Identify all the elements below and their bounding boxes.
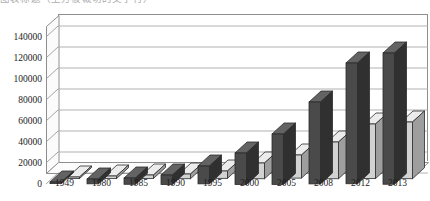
x-tick-label: 1949 xyxy=(46,178,83,189)
x-tick-label: 1995 xyxy=(194,178,231,189)
y-tick-label: 60000 xyxy=(18,116,42,126)
y-tick-label: 40000 xyxy=(18,137,42,147)
x-tick-label: 1990 xyxy=(157,178,194,189)
bar-column xyxy=(272,134,284,184)
x-axis-tick-labels: 1949198019851990199520002005200820122013 xyxy=(0,178,428,200)
y-tick-label: 140000 xyxy=(14,32,43,42)
x-tick-label: 2005 xyxy=(268,178,305,189)
clipped-caption-text: 图表标题（上方被裁切的文字行） xyxy=(0,0,428,3)
chart-left-wall xyxy=(46,14,59,173)
bar-column xyxy=(346,63,358,184)
x-tick-label: 1985 xyxy=(120,178,157,189)
column-chart-3d: 020000400006000080000100000120000140000 … xyxy=(0,12,428,201)
bar-column xyxy=(383,53,395,184)
x-tick-label: 2000 xyxy=(231,178,268,189)
x-tick-label: 2012 xyxy=(342,178,379,189)
y-tick-label: 20000 xyxy=(18,158,42,168)
bar-column xyxy=(309,102,321,184)
y-tick-label: 120000 xyxy=(14,53,43,63)
x-tick-label: 1980 xyxy=(83,178,120,189)
y-tick-label: 80000 xyxy=(18,95,42,105)
x-tick-label: 2013 xyxy=(379,178,416,189)
y-axis-tick-labels: 020000400006000080000100000120000140000 xyxy=(0,12,44,201)
y-tick-label: 100000 xyxy=(14,74,43,84)
x-tick-label: 2008 xyxy=(305,178,342,189)
